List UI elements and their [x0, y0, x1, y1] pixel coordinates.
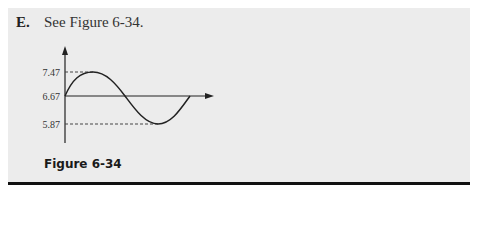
y-axis-arrow-icon: [62, 46, 68, 55]
y-tick-5-87: 5.87: [43, 119, 61, 130]
sine-curve: [65, 72, 190, 124]
figure-caption: Figure 6-34: [44, 157, 122, 171]
y-tick-6-67: 6.67: [43, 91, 61, 102]
y-tick-7-47: 7.47: [43, 67, 61, 78]
section-divider: [8, 182, 470, 185]
x-axis-arrow-icon: [205, 93, 214, 99]
